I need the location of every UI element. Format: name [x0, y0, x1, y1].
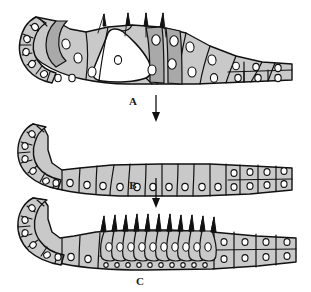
epithelium-diagram: A — [0, 0, 311, 292]
arrow-a-group: A — [129, 95, 160, 122]
panel-3-epithelium — [18, 198, 296, 270]
label-b: B — [129, 179, 137, 191]
figure-root: A — [0, 0, 311, 292]
label-a: A — [129, 95, 137, 107]
arrow-a-icon — [152, 95, 160, 122]
label-c: C — [136, 275, 144, 287]
panel-2-epithelium — [18, 124, 292, 196]
panel-1-epithelium — [19, 13, 292, 84]
